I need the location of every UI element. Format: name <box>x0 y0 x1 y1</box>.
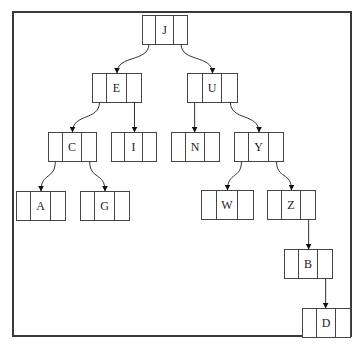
right-pointer-cell <box>174 16 187 44</box>
left-pointer-cell <box>17 192 31 220</box>
left-pointer-cell <box>235 133 249 161</box>
left-pointer-cell <box>93 74 107 102</box>
node-label: J <box>156 16 174 44</box>
left-pointer-cell <box>202 191 217 219</box>
tree-node-c: C <box>48 132 97 162</box>
tree-node-b: B <box>284 249 333 279</box>
right-pointer-cell <box>127 74 141 102</box>
node-label: A <box>31 192 50 220</box>
left-pointer-cell <box>49 133 63 161</box>
tree-node-j: J <box>142 15 188 45</box>
node-label: W <box>217 191 237 219</box>
tree-node-y: Y <box>234 132 284 162</box>
tree-node-e: E <box>92 73 142 103</box>
right-pointer-cell <box>318 250 332 278</box>
node-label: Z <box>282 191 301 219</box>
right-pointer-cell <box>51 192 65 220</box>
left-pointer-cell <box>303 309 317 337</box>
left-pointer-cell <box>188 74 203 102</box>
left-pointer-cell <box>268 191 282 219</box>
right-pointer-cell <box>238 191 253 219</box>
tree-node-u: U <box>187 73 238 103</box>
node-label: N <box>186 133 205 161</box>
left-pointer-cell <box>172 133 186 161</box>
right-pointer-cell <box>336 309 350 337</box>
tree-node-a: A <box>16 191 66 221</box>
node-label: I <box>125 133 143 161</box>
right-pointer-cell <box>222 74 237 102</box>
tree-node-n: N <box>171 132 220 162</box>
left-pointer-cell <box>285 250 299 278</box>
node-label: G <box>95 192 114 220</box>
left-pointer-cell <box>112 133 125 161</box>
node-label: B <box>299 250 318 278</box>
node-label: D <box>317 309 336 337</box>
right-pointer-cell <box>143 133 156 161</box>
node-label: E <box>107 74 126 102</box>
tree-node-i: I <box>111 132 157 162</box>
node-label: C <box>63 133 82 161</box>
tree-node-g: G <box>80 191 130 221</box>
node-label: Y <box>249 133 268 161</box>
tree-node-z: Z <box>267 190 316 220</box>
right-pointer-cell <box>82 133 96 161</box>
tree-node-d: D <box>302 308 351 338</box>
left-pointer-cell <box>143 16 156 44</box>
left-pointer-cell <box>81 192 95 220</box>
right-pointer-cell <box>115 192 129 220</box>
node-label: U <box>203 74 223 102</box>
right-pointer-cell <box>301 191 315 219</box>
tree-node-w: W <box>201 190 254 220</box>
right-pointer-cell <box>205 133 219 161</box>
diagram-frame <box>12 11 352 337</box>
right-pointer-cell <box>269 133 283 161</box>
